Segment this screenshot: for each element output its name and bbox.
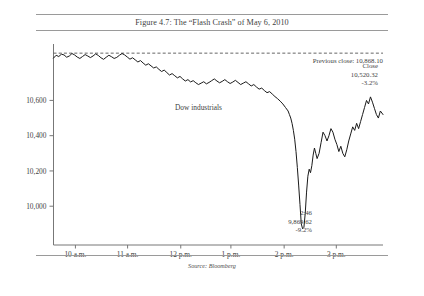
close-annotation-title: Close: [363, 62, 378, 69]
x-axis-tick-label: 1 p.m.: [222, 250, 241, 259]
close-annotation-value: 10,520.32: [351, 71, 379, 78]
low-annotation-value: 9,869.62: [288, 218, 312, 225]
x-axis-tick-label: 11 a.m.: [117, 250, 139, 259]
bottom-rule: [36, 255, 388, 256]
low-annotation-time: 2:46: [300, 209, 313, 216]
y-axis-tick-label: 10,400: [26, 131, 47, 140]
dow-industrials-label: Dow industrials: [175, 103, 222, 112]
x-axis-tick-label: 2 p.m.: [275, 250, 294, 259]
y-axis-tick-label: 10,600: [26, 96, 47, 105]
figure-container: Figure 4.7: The “Flash Crash” of May 6, …: [0, 0, 424, 296]
x-axis-tick-label: 10 a.m.: [64, 250, 86, 259]
close-annotation-change: -3.2%: [362, 79, 379, 86]
x-axis-tick-label: 12 p.m.: [170, 250, 193, 259]
flash-crash-line-chart: 10,60010,40010,20010,00010 a.m.11 a.m.12…: [0, 0, 424, 296]
x-axis-tick-label: 3 p.m.: [327, 250, 346, 259]
low-annotation-change: -9.2%: [296, 226, 313, 233]
y-axis-tick-label: 10,200: [26, 167, 47, 176]
dow-industrials-line: [54, 54, 384, 229]
y-axis-tick-label: 10,000: [26, 202, 47, 211]
source-note: Source: Bloomberg: [0, 262, 424, 269]
